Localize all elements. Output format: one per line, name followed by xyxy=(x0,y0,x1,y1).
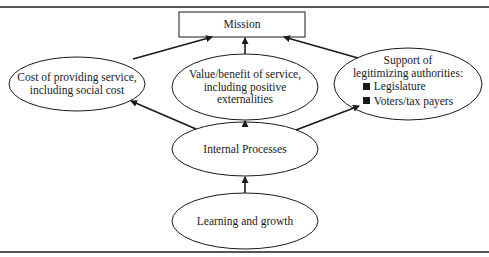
internal-processes-text: Internal Processes xyxy=(203,143,286,155)
support-bullet-list: Legislature Voters/tax payers xyxy=(363,80,453,107)
bullet-text: Legislature xyxy=(374,80,426,93)
edge-internal-to-support xyxy=(296,106,359,130)
value-label: Value/benefit of service, including posi… xyxy=(175,68,315,106)
cost-label: Cost of providing service, including soc… xyxy=(12,71,142,96)
cost-line-1: Cost of providing service, xyxy=(12,71,142,84)
learning-growth-label: Learning and growth xyxy=(172,215,318,228)
value-line-3: externalities xyxy=(175,93,315,106)
support-bullet-legislature: Legislature xyxy=(363,80,453,93)
value-line-1: Value/benefit of service, xyxy=(175,68,315,81)
value-line-2: including positive xyxy=(175,81,315,94)
mission-text: Mission xyxy=(223,18,260,30)
learning-growth-text: Learning and growth xyxy=(197,215,293,227)
bullet-text: Voters/tax payers xyxy=(374,95,453,108)
bullet-square-icon xyxy=(363,83,370,90)
mission-label: Mission xyxy=(179,18,305,31)
support-line-2: legitimizing authorities: xyxy=(338,67,478,80)
support-line-1: Support of xyxy=(338,54,478,67)
internal-processes-label: Internal Processes xyxy=(172,143,318,156)
cost-line-2: including social cost xyxy=(12,84,142,97)
support-bullet-voters: Voters/tax payers xyxy=(363,95,453,108)
support-label: Support of legitimizing authorities: Leg… xyxy=(338,54,478,107)
bullet-square-icon xyxy=(363,97,370,104)
edge-cost-to-mission xyxy=(133,37,212,59)
